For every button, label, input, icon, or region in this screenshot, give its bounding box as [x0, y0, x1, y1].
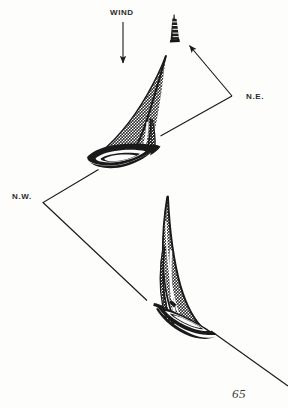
northeast-arrow — [161, 46, 233, 137]
figure-page: WIND N.E. N.W. 65 — [0, 0, 288, 408]
page-number: 65 — [232, 386, 246, 402]
lower-sailboat — [153, 197, 216, 339]
upper-sailboat — [87, 56, 166, 168]
northwest-arrow — [43, 170, 147, 301]
northeast-label: N.E. — [246, 92, 264, 101]
wind-label: WIND — [110, 8, 134, 17]
heading-line — [211, 331, 288, 386]
distant-boat-icon — [170, 15, 180, 43]
northwest-label: N.W. — [12, 192, 32, 201]
sailing-diagram — [0, 0, 288, 408]
